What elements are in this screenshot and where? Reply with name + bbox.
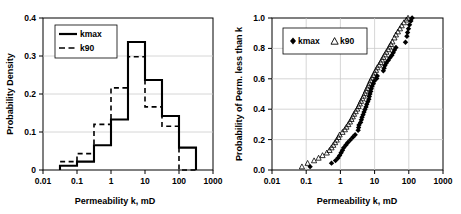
legend-label-kmax: kmax bbox=[80, 29, 102, 39]
x-axis-title: Permeability k, mD bbox=[75, 196, 156, 206]
y-tick-label: 0.2 bbox=[253, 135, 265, 145]
y-tick-label: 0.3 bbox=[24, 51, 36, 61]
cumulative-probability-chart-panel: 0.010.11101001000 0.00.20.40.60.81.0 kma… bbox=[230, 0, 461, 214]
y-tick-label: 0.1 bbox=[24, 127, 36, 137]
legend: kmax k90 bbox=[55, 25, 117, 58]
legend-label-kmax: kmax bbox=[298, 36, 320, 46]
x-axis-ticks: 0.010.11101001000 bbox=[264, 170, 453, 186]
y-axis-ticks: 00.10.20.30.4 bbox=[24, 13, 43, 175]
x-tick-label: 0.1 bbox=[300, 176, 312, 186]
x-tick-label: 100 bbox=[172, 176, 186, 186]
probability-density-chart-panel: 0.010.11101001000 00.10.20.30.4 kmax k90… bbox=[0, 0, 230, 214]
y-axis-title: Probability of Perm. less than k bbox=[234, 26, 244, 161]
legend-label-k90: k90 bbox=[80, 43, 94, 53]
cumulative-probability-chart: 0.010.11101001000 0.00.20.40.60.81.0 kma… bbox=[230, 0, 461, 214]
y-tick-label: 0.8 bbox=[253, 43, 265, 53]
y-tick-label: 0.4 bbox=[253, 104, 265, 114]
two-panel-permeability-figure: 0.010.11101001000 00.10.20.30.4 kmax k90… bbox=[0, 0, 461, 214]
x-tick-label: 1 bbox=[109, 176, 114, 186]
y-tick-label: 1.0 bbox=[253, 13, 265, 23]
y-tick-label: 0.4 bbox=[24, 13, 36, 23]
probability-density-chart: 0.010.11101001000 00.10.20.30.4 kmax k90… bbox=[0, 0, 230, 214]
legend-label-k90: k90 bbox=[340, 36, 354, 46]
x-axis-ticks: 0.010.11101001000 bbox=[35, 170, 223, 186]
x-tick-label: 10 bbox=[140, 176, 150, 186]
y-tick-label: 0.2 bbox=[24, 89, 36, 99]
x-tick-label: 100 bbox=[402, 176, 416, 186]
x-tick-label: 10 bbox=[370, 176, 380, 186]
y-axis-title: Probability Density bbox=[5, 53, 15, 135]
legend: kmax k90 bbox=[283, 28, 367, 54]
y-tick-label: 0 bbox=[31, 165, 36, 175]
y-tick-label: 0.6 bbox=[253, 74, 265, 84]
x-tick-label: 0.01 bbox=[35, 176, 52, 186]
x-tick-label: 0.1 bbox=[71, 176, 83, 186]
x-tick-label: 1000 bbox=[434, 176, 453, 186]
y-axis-ticks: 0.00.20.40.60.81.0 bbox=[253, 13, 272, 175]
x-tick-label: 1 bbox=[338, 176, 343, 186]
x-axis-title: Permeability k, mD bbox=[317, 196, 398, 206]
x-tick-label: 0.01 bbox=[264, 176, 281, 186]
y-tick-label: 0.0 bbox=[253, 165, 265, 175]
x-tick-label: 1000 bbox=[204, 176, 223, 186]
